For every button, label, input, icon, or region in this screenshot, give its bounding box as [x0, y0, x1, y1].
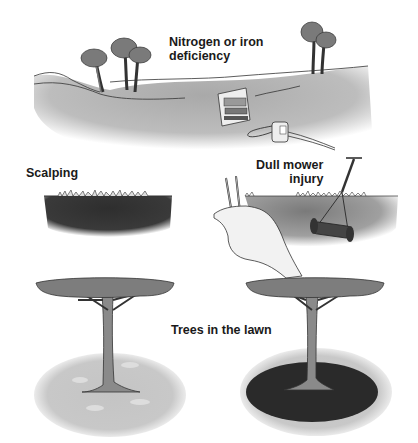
label-line: Nitrogen or iron	[169, 35, 263, 49]
label-scalping: Scalping	[26, 166, 78, 180]
label-dull-mower-injury: Dull mower injury	[256, 158, 323, 186]
label-nitrogen-deficiency: Nitrogen or iron deficiency	[169, 35, 263, 63]
illustration: Nitrogen or iron deficiency Scalping Dul…	[0, 0, 418, 443]
fertilizer-bag-icon	[218, 88, 250, 126]
palm-tree-icon	[301, 22, 336, 74]
lawn-problems-drawing	[0, 0, 418, 443]
label-text: Scalping	[26, 166, 78, 180]
label-line: deficiency	[169, 49, 263, 63]
palm-tree-icon	[111, 38, 151, 92]
label-trees-in-lawn: Trees in the lawn	[171, 323, 272, 337]
label-text: Trees in the lawn	[171, 323, 272, 337]
tree-lawn-scene-right	[240, 278, 392, 436]
label-line: Dull mower	[256, 158, 323, 172]
tree-lawn-scene-left	[34, 278, 186, 437]
label-line: injury	[256, 172, 323, 186]
scalping-scene	[44, 190, 172, 237]
